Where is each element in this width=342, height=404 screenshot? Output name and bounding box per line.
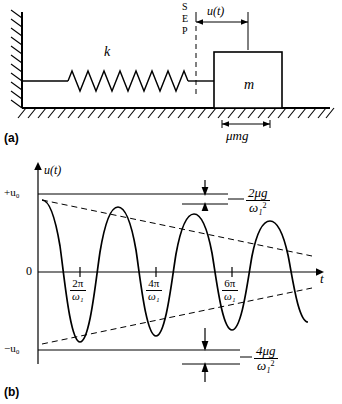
friction-arrow-left [222,121,229,126]
annotation-top-den: ω₁2 [246,201,270,215]
x-tick-label-1-num: 2π [70,278,86,291]
x-tick-label-1: 2π ω₁ [70,278,86,302]
sep-letter-s: S [182,2,188,12]
annotation-bottom-num: 4μg [254,344,278,359]
displacement-label: u(t) [207,5,224,17]
x-tick-label-2-num: 4π [146,278,162,291]
spring-constant-label: k [104,45,110,59]
y-axis-label: u(t) [44,164,61,176]
panel-a-svg [0,0,342,150]
figure-root: k m u(t) S E P μmg (a) [0,0,342,404]
annotation-top-den-sup: 2 [263,201,267,210]
x-tick-label-3-den: ω₁ [222,291,238,303]
annotation-top-arrowhead-2 [202,202,209,211]
x-axis-label: t [320,272,324,285]
friction-arrow-right [263,121,270,126]
x-tick-label-3: 6π ω₁ [222,278,238,302]
sep-letter-e: E [182,14,188,24]
friction-force-label: μmg [226,129,248,142]
x-tick-label-2: 4π ω₁ [146,278,162,302]
x-tick-label-3-num: 6π [222,278,238,291]
annotation-top-arrowhead [202,187,209,196]
panel-b-label: (b) [4,386,19,398]
dim-arrow-left [196,19,203,24]
y-axis-arrowhead [34,162,42,170]
annotation-top-den-sym: ω₁ [249,200,263,215]
panel-a-diagram: k m u(t) S E P μmg (a) [0,0,342,150]
ground-hatching [18,108,334,118]
spring-coil [68,71,188,91]
annotation-bottom-den-sup: 2 [271,359,275,368]
annotation-bottom-den: ω₁2 [254,359,278,373]
panel-a-label: (a) [4,132,19,144]
displacement-curve [42,200,308,342]
mass-label: m [244,78,254,92]
wall-hatching [11,10,22,108]
annotation-top-label: 2μg ω₁2 [246,186,270,214]
panel-b-svg [0,150,342,404]
y-tick-label-plus-u0: +u₀ [4,187,20,198]
annotation-bottom-den-sym: ω₁ [257,358,271,373]
panel-b-plot: u(t) t +u₀ −u₀ 0 2π ω₁ 4π ω₁ 6π ω₁ 2μg ω… [0,150,342,404]
x-tick-label-2-den: ω₁ [146,291,162,303]
origin-label: 0 [26,265,32,277]
y-tick-label-minus-u0: −u₀ [4,343,20,354]
sep-letter-p: P [182,26,188,36]
dim-arrow-right [241,19,248,24]
annotation-top-num: 2μg [246,186,270,201]
annotation-bottom-label: 4μg ω₁2 [254,344,278,372]
x-tick-label-1-den: ω₁ [70,291,86,303]
